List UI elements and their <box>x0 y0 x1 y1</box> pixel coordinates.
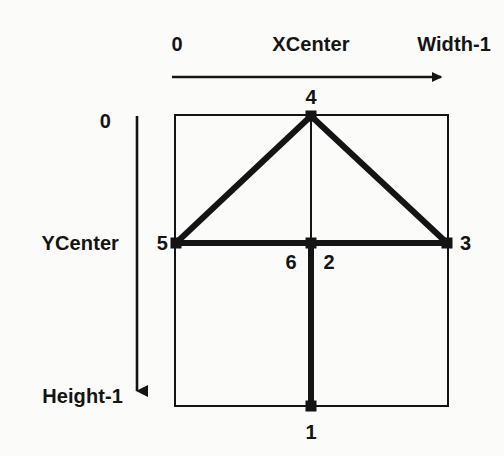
x-axis-start-label: 0 <box>171 34 182 54</box>
node-marker-1[interactable] <box>306 401 317 412</box>
node-marker-2[interactable] <box>306 238 317 249</box>
node-label-6: 6 <box>285 252 296 272</box>
node-label-4: 4 <box>305 87 316 107</box>
y-axis-end-label: Height-1 <box>42 386 123 406</box>
node-marker-4[interactable] <box>306 111 317 122</box>
x-axis-end-label: Width-1 <box>417 34 491 54</box>
node-label-1: 1 <box>305 422 316 442</box>
y-axis-start-label: 0 <box>100 111 111 131</box>
node-marker-5[interactable] <box>171 238 182 249</box>
x-axis-center-label: XCenter <box>272 34 349 54</box>
diagram-canvas: 0 XCenter Width-1 0 YCenter Height-1 4 5… <box>0 0 504 456</box>
node-label-2: 2 <box>323 252 334 272</box>
y-axis-center-label: YCenter <box>42 233 119 253</box>
node-label-3: 3 <box>460 233 471 253</box>
edge-5-to-4 <box>176 116 311 243</box>
node-label-5: 5 <box>157 233 168 253</box>
node-marker-3[interactable] <box>442 238 453 249</box>
edge-4-to-3 <box>311 116 447 243</box>
